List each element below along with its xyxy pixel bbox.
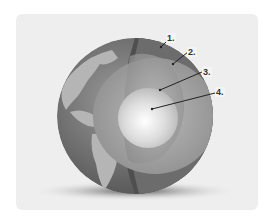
label-3: 3. xyxy=(202,67,212,77)
inner-core-layer xyxy=(118,88,178,148)
earth-cross-section-diagram xyxy=(0,0,272,223)
label-1: 1. xyxy=(166,33,176,43)
label-2: 2. xyxy=(187,47,197,57)
label-4: 4. xyxy=(215,87,225,97)
